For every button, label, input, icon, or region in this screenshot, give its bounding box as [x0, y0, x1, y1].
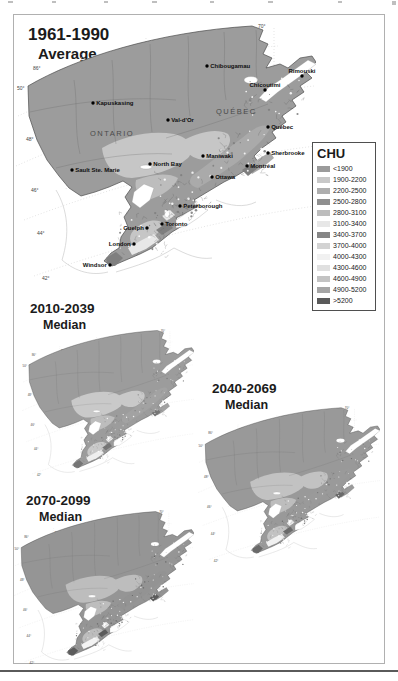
- city-label: Toronto: [165, 221, 188, 227]
- city-label: Maniwaki: [206, 153, 233, 159]
- legend-swatch: [317, 254, 330, 260]
- legend-item: <1900: [317, 163, 372, 174]
- city-dot: [132, 242, 135, 245]
- city-label: Kapuskasing: [96, 100, 134, 106]
- page-divider-line: [0, 670, 398, 672]
- city-label: Sherbrooke: [271, 150, 305, 156]
- map-2010-2039: [22, 327, 194, 479]
- legend-item: 1900-2200: [317, 174, 372, 185]
- legend-item-label: 2800-3100: [333, 209, 366, 216]
- legend-swatch: [317, 188, 330, 194]
- legend-swatch: [317, 232, 330, 238]
- city-dot: [210, 175, 213, 178]
- legend-item-label: 3100-3400: [333, 220, 366, 227]
- city-label: Sault Ste. Marie: [75, 167, 120, 173]
- legend-title: CHU: [317, 146, 372, 161]
- city-label: Rimouski: [288, 68, 315, 74]
- cropped-text-fragment: [338, 1, 342, 3]
- legend-item: 3700-4000: [317, 240, 372, 251]
- legend-item-label: >5200: [333, 297, 353, 304]
- city-label: Guelph: [123, 225, 144, 231]
- cropped-text-fragment: [392, 1, 396, 5]
- legend-item: 3100-3400: [317, 218, 372, 229]
- legend-swatch: [317, 199, 330, 205]
- city-label: Val-d'Or: [171, 117, 194, 123]
- city-dot: [145, 226, 148, 229]
- legend-swatch: [317, 210, 330, 216]
- legend-swatch: [317, 166, 330, 172]
- legend-item: 2500-2800: [317, 196, 372, 207]
- cropped-text-fragment: [152, 1, 157, 3]
- city-dot: [70, 168, 73, 171]
- city-dot: [266, 151, 269, 154]
- legend-item-label: 4900-5200: [333, 286, 366, 293]
- panel-period: 2010-2039: [30, 301, 95, 316]
- legend-swatch: [317, 177, 330, 183]
- legend-item: 4300-4600: [317, 262, 372, 273]
- legend-item-label: 2200-2500: [333, 187, 366, 194]
- city-dot: [201, 154, 204, 157]
- city-label: Windsor: [83, 262, 108, 268]
- legend-item-label: 4600-4900: [333, 275, 366, 282]
- city-dot: [108, 263, 111, 266]
- map-1961-1990: ONTARIOQUÉBECChibougamauRimouskiChicouti…: [16, 20, 316, 285]
- city-label: Montréal: [250, 163, 275, 169]
- city-label: Québec: [271, 124, 294, 130]
- legend-swatch: [317, 276, 330, 282]
- city-label: Chibougamau: [210, 63, 250, 69]
- legend-item-label: 2500-2800: [333, 198, 366, 205]
- city-dot: [266, 125, 269, 128]
- legend-swatch: [317, 265, 330, 271]
- legend-item-label: <1900: [333, 165, 353, 172]
- cropped-text-fragment: [8, 1, 13, 3]
- city-dot: [148, 162, 151, 165]
- city-dot: [91, 101, 94, 104]
- legend-item: 4000-4300: [317, 251, 372, 262]
- city-dot: [160, 222, 163, 225]
- city-label: Peterborough: [183, 203, 223, 209]
- legend-swatch: [317, 243, 330, 249]
- city-label: London: [109, 241, 131, 247]
- province-label: ONTARIO: [90, 129, 134, 138]
- legend-item-label: 1900-2200: [333, 176, 366, 183]
- legend-item: 4600-4900: [317, 273, 372, 284]
- map-2070-2099: [14, 508, 194, 667]
- legend-item: 3400-3700: [317, 229, 372, 240]
- legend-item-label: 3400-3700: [333, 231, 366, 238]
- panel-period: 2040-2069: [212, 381, 277, 396]
- city-dot: [205, 64, 208, 67]
- city-label: North Bay: [153, 161, 182, 167]
- legend-item: >5200: [317, 295, 372, 306]
- city-dot: [245, 164, 248, 167]
- city-label: Ottawa: [215, 174, 236, 180]
- city-dot: [300, 74, 303, 77]
- city-dot: [166, 118, 169, 121]
- map-2040-2069: [198, 404, 380, 565]
- legend-item-label: 3700-4000: [333, 242, 366, 249]
- city-label: Chicoutimi: [250, 82, 281, 88]
- page: 86°82°78°74°70°50°48°46°44°42°: [0, 0, 398, 681]
- cropped-text-fragment: [104, 1, 108, 3]
- legend-item: 4900-5200: [317, 284, 372, 295]
- panel-period: 2070-2099: [26, 493, 91, 508]
- legend-swatch: [317, 298, 330, 304]
- legend: CHU <19001900-22002200-25002500-28002800…: [312, 142, 376, 311]
- city-dot: [263, 88, 266, 91]
- legend-item: 2200-2500: [317, 185, 372, 196]
- legend-item-label: 4300-4600: [333, 264, 366, 271]
- legend-item: 2800-3100: [317, 207, 372, 218]
- cropped-text-fragment: [268, 1, 273, 3]
- city-dot: [178, 204, 181, 207]
- province-label: QUÉBEC: [216, 107, 257, 116]
- cropped-text-fragment: [210, 1, 214, 3]
- cropped-text-fragment: [52, 1, 56, 3]
- legend-swatch: [317, 287, 330, 293]
- legend-swatch: [317, 221, 330, 227]
- legend-items: <19001900-22002200-25002500-28002800-310…: [317, 163, 372, 306]
- legend-item-label: 4000-4300: [333, 253, 366, 260]
